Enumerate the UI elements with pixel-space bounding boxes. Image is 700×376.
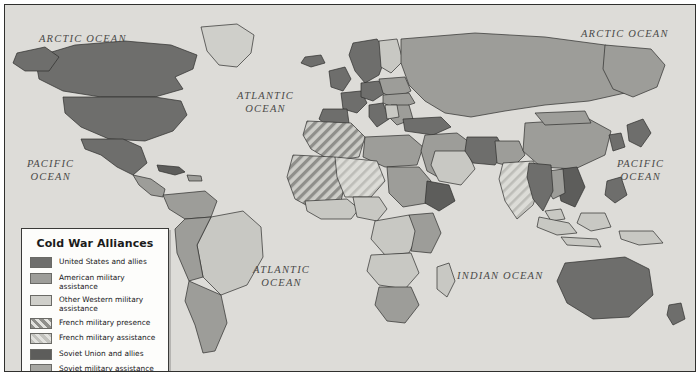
region-madagascar <box>437 263 455 297</box>
legend-label: American military assistance <box>59 272 160 291</box>
region-greenland <box>201 24 254 67</box>
legend-item: Soviet Union and allies <box>30 348 160 360</box>
region-central-america <box>133 175 165 197</box>
region-angola-zambia <box>367 253 419 289</box>
legend-item: American military assistance <box>30 272 160 291</box>
legend-label: French military presence <box>59 317 150 327</box>
map-legend: Cold War Alliances United States and all… <box>21 228 169 372</box>
legend-swatch <box>30 364 52 372</box>
legend-item: Other Western military assistance <box>30 294 160 313</box>
region-new-zealand <box>667 303 685 325</box>
region-guinea-coast <box>305 199 359 219</box>
legend-item: French military assistance <box>30 332 160 344</box>
region-sudan-ethiopia <box>387 167 431 207</box>
region-japan <box>627 119 651 147</box>
legend-item-list: United States and alliesAmerican militar… <box>30 256 160 372</box>
region-morocco-algeria-hatched <box>303 121 365 161</box>
cold-war-alliances-map: ARCTIC OCEANARCTIC OCEANATLANTIC OCEANPA… <box>0 0 700 376</box>
region-canada <box>35 41 197 97</box>
map-frame: ARCTIC OCEANARCTIC OCEANATLANTIC OCEANPA… <box>4 4 696 372</box>
legend-label: French military assistance <box>59 332 155 342</box>
legend-label: United States and allies <box>59 256 147 266</box>
legend-label: Soviet military assistance <box>59 363 154 372</box>
legend-swatch <box>30 295 52 306</box>
region-colombia-venezuela <box>163 191 217 219</box>
legend-label: Soviet Union and allies <box>59 348 143 358</box>
region-cuba <box>157 165 185 175</box>
region-mongolia <box>535 111 591 125</box>
legend-item: United States and allies <box>30 256 160 268</box>
region-iceland <box>301 55 325 67</box>
region-sahel-hatched <box>335 157 385 197</box>
legend-item: Soviet military assistance <box>30 363 160 372</box>
legend-label: Other Western military assistance <box>59 294 160 313</box>
region-yugoslavia <box>385 105 399 119</box>
region-british-isles <box>329 67 351 91</box>
legend-swatch <box>30 333 52 344</box>
region-new-guinea <box>619 231 663 245</box>
region-philippines <box>605 177 627 203</box>
region-nigeria-cameroon <box>353 197 387 221</box>
region-southern-africa <box>375 287 419 323</box>
region-korea <box>609 133 625 151</box>
legend-swatch <box>30 349 52 360</box>
legend-swatch <box>30 273 52 284</box>
region-australia <box>557 257 653 319</box>
legend-item: French military presence <box>30 317 160 329</box>
region-united-states <box>63 97 187 141</box>
region-hispaniola <box>187 175 202 181</box>
region-china <box>523 119 611 169</box>
legend-title: Cold War Alliances <box>30 237 160 250</box>
legend-swatch <box>30 318 52 329</box>
legend-swatch <box>30 257 52 268</box>
region-mexico <box>81 139 147 175</box>
region-borneo <box>577 213 611 231</box>
region-indonesia-java <box>561 237 601 247</box>
region-horn-of-africa <box>425 181 455 211</box>
region-greece-turkey <box>403 117 451 135</box>
region-finland <box>379 39 403 73</box>
